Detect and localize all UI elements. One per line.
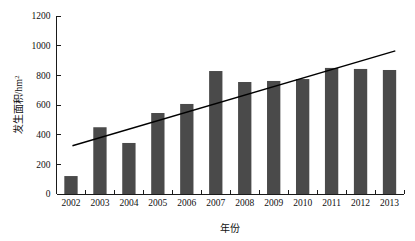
bar-2012: [354, 69, 367, 194]
x-tick-label: 2002: [61, 198, 80, 208]
x-tick-label: 2003: [90, 198, 109, 208]
y-tick-label: 0: [46, 189, 51, 199]
y-axis-title: 发生面积/hm2: [12, 76, 24, 135]
x-tick-label: 2013: [380, 198, 399, 208]
bar-2005: [151, 113, 164, 194]
y-axis-title-superscript: 2: [13, 76, 20, 79]
bar-chart: 020040060080010001200 200220032004200520…: [0, 0, 415, 241]
x-tick-label: 2011: [322, 198, 341, 208]
y-tick-label: 200: [36, 160, 51, 170]
bar-2010: [296, 79, 309, 194]
y-tick-label: 600: [36, 100, 51, 110]
chart-container: 020040060080010001200 200220032004200520…: [0, 0, 415, 241]
bar-2013: [383, 70, 396, 194]
bar-2009: [267, 81, 280, 194]
y-tick-label: 800: [36, 71, 51, 81]
bar-2011: [325, 68, 338, 194]
x-tick-label: 2008: [235, 198, 254, 208]
y-tick-label: 1000: [32, 41, 51, 51]
bar-2007: [209, 71, 222, 194]
y-tick-label: 1200: [32, 11, 51, 21]
x-axis-title: 年份: [220, 222, 240, 234]
x-tick-label: 2006: [177, 198, 196, 208]
x-tick-label: 2012: [351, 198, 370, 208]
bar-2002: [64, 176, 77, 194]
bar-2006: [180, 104, 193, 194]
x-tick-label: 2010: [293, 198, 312, 208]
svg-text:发生面积/hm2: 发生面积/hm2: [12, 76, 24, 135]
x-tick-label: 2007: [206, 198, 225, 208]
x-tick-label: 2004: [119, 198, 138, 208]
bar-2008: [238, 82, 251, 194]
y-tick-label: 400: [36, 130, 51, 140]
x-tick-label: 2009: [264, 198, 283, 208]
x-tick-label: 2005: [148, 198, 167, 208]
bar-2004: [122, 143, 135, 194]
y-axis-title-text: 发生面积/hm: [12, 79, 24, 135]
